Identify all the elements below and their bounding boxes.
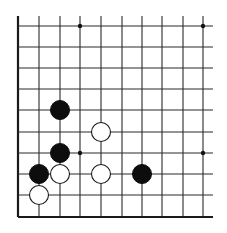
go-board-diagram <box>0 0 227 233</box>
white-stone <box>30 186 49 205</box>
black-stone <box>51 101 70 120</box>
star-point-icon <box>78 151 82 155</box>
white-stone <box>92 123 111 142</box>
star-point-icon <box>201 151 205 155</box>
star-point-icon <box>78 24 82 28</box>
star-point-icon <box>201 24 205 28</box>
black-stone <box>133 165 152 184</box>
go-board <box>0 0 227 233</box>
white-stone <box>92 165 111 184</box>
black-stone <box>30 165 49 184</box>
black-stone <box>51 144 70 163</box>
board-grid <box>18 16 213 217</box>
white-stone <box>51 165 70 184</box>
